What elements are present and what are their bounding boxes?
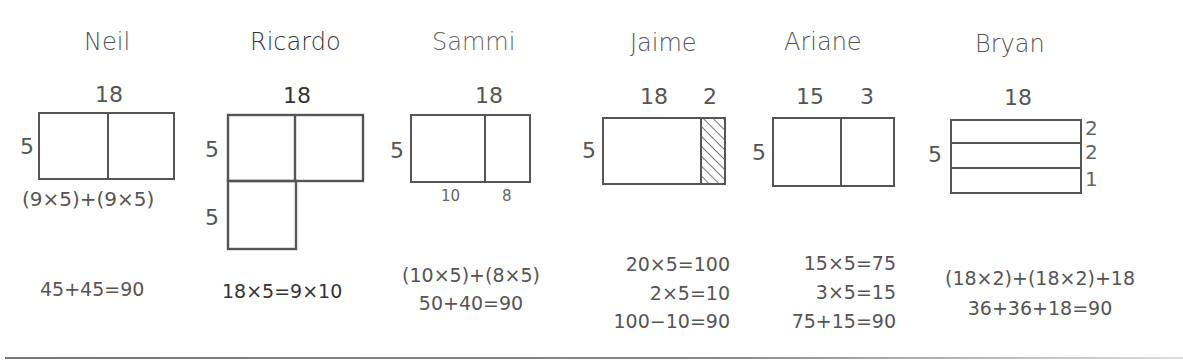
bryan-equation-2: 36+36+18=90 bbox=[915, 297, 1165, 320]
ricardo-rectangle bbox=[228, 115, 363, 249]
ariane-top-label-2: 3 bbox=[860, 86, 874, 108]
bryan-right-label-1: 2 bbox=[1085, 118, 1098, 138]
ricardo-top-label: 18 bbox=[283, 85, 311, 107]
strategy-name-neil: Neil bbox=[84, 30, 130, 54]
jaime-equation-3: 100−10=90 bbox=[590, 310, 730, 333]
bryan-rectangle bbox=[951, 120, 1081, 193]
ariane-top-label-1: 15 bbox=[796, 86, 824, 108]
bryan-side-label: 5 bbox=[928, 144, 942, 166]
ariane-equation-1: 15×5=75 bbox=[756, 252, 896, 275]
ariane-side-label: 5 bbox=[752, 142, 766, 164]
ariane-equation-2: 3×5=15 bbox=[756, 281, 896, 304]
strategy-name-jaime: Jaime bbox=[630, 31, 697, 55]
sammi-side-label: 5 bbox=[390, 140, 404, 162]
bryan-right-label-3: 1 bbox=[1085, 169, 1098, 189]
neil-side-label: 5 bbox=[20, 136, 34, 158]
strategy-name-ariane: Ariane bbox=[784, 30, 862, 54]
jaime-equation-1: 20×5=100 bbox=[590, 253, 730, 276]
bryan-equation-1: (18×2)+(18×2)+18 bbox=[915, 267, 1165, 290]
sammi-bottom-label-1: 10 bbox=[441, 189, 460, 204]
jaime-top-label-2: 2 bbox=[703, 86, 717, 108]
jaime-rectangle bbox=[603, 118, 725, 184]
strategy-name-sammi: Sammi bbox=[432, 30, 515, 54]
jaime-equation-2: 2×5=10 bbox=[590, 282, 730, 305]
bryan-top-label: 18 bbox=[1004, 87, 1032, 109]
jaime-side-label: 5 bbox=[582, 140, 596, 162]
neil-rectangle bbox=[39, 113, 174, 179]
sammi-rectangle bbox=[411, 115, 530, 182]
sammi-equation-1: (10×5)+(8×5) bbox=[383, 264, 559, 287]
strategy-name-ricardo: Ricardo bbox=[250, 30, 341, 54]
ricardo-side-label-2: 5 bbox=[205, 207, 219, 229]
sammi-top-label: 18 bbox=[475, 85, 503, 107]
bryan-right-label-2: 2 bbox=[1085, 142, 1098, 162]
ricardo-equation-1: 18×5=9×10 bbox=[222, 280, 342, 303]
neil-top-label: 18 bbox=[95, 84, 123, 106]
jaime-top-label-1: 18 bbox=[640, 86, 668, 108]
neil-equation-1: 45+45=90 bbox=[40, 278, 144, 301]
ricardo-side-label-1: 5 bbox=[205, 139, 219, 161]
ariane-equation-3: 75+15=90 bbox=[756, 310, 896, 333]
bottom-divider bbox=[5, 357, 1183, 359]
strategy-name-bryan: Bryan bbox=[975, 32, 1045, 56]
ariane-rectangle bbox=[773, 118, 894, 186]
neil-expression: (9×5)+(9×5) bbox=[22, 187, 154, 211]
sammi-equation-2: 50+40=90 bbox=[383, 292, 559, 315]
sammi-bottom-label-2: 8 bbox=[502, 189, 512, 204]
